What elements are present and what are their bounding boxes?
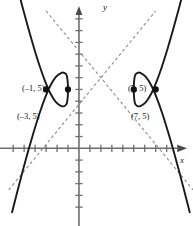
label-focus-right: (7, 5) bbox=[131, 112, 149, 121]
label-focus-left: (–3, 5) bbox=[17, 112, 40, 121]
marked-point-focus bbox=[153, 86, 159, 92]
marked-point-vertex bbox=[65, 86, 71, 92]
hyperbola-curves-group bbox=[12, 0, 190, 212]
hyperbola-left-branch bbox=[12, 0, 68, 212]
hyperbola-figure: y x (–1, 5) (–3, 5) (5, 5) (7, 5) bbox=[0, 0, 193, 226]
x-axis-label: x bbox=[180, 156, 184, 165]
y-axis-label: y bbox=[103, 3, 107, 12]
hyperbola-right-branch bbox=[134, 0, 190, 212]
y-axis-arrow-icon bbox=[76, 6, 83, 15]
asymptotes-group bbox=[9, 11, 193, 190]
x-axis-arrow-icon bbox=[178, 145, 187, 152]
label-vertex-left: (–1, 5) bbox=[22, 84, 45, 93]
label-vertex-right: (5, 5) bbox=[128, 84, 146, 93]
